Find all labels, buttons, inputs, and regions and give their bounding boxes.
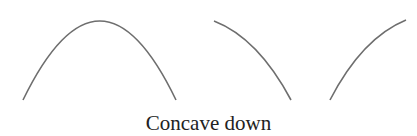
diagram-canvas: Concave down — [0, 0, 417, 136]
curve-decreasing — [214, 21, 291, 100]
caption: Concave down — [0, 111, 417, 135]
curve-full-arch — [23, 21, 176, 100]
curve-increasing — [330, 20, 406, 100]
